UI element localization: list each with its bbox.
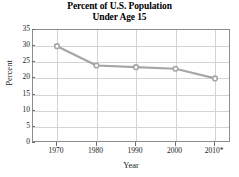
- y-axis-tick-mark: [32, 29, 35, 30]
- y-axis-tick-labels: 05101520253035: [5, 29, 30, 142]
- chart-title-line-1: Percent of U.S. Population: [0, 1, 239, 12]
- y-axis-tick-mark: [32, 142, 35, 143]
- data-point-marker: [173, 66, 178, 71]
- y-axis-tick-mark: [32, 61, 35, 62]
- data-point-marker: [55, 44, 60, 49]
- y-axis-tick-label: 25: [8, 57, 30, 65]
- y-axis-tick-label: 35: [8, 25, 30, 33]
- y-axis-tick-label: 5: [8, 122, 30, 130]
- y-axis-tick-mark: [32, 94, 35, 95]
- x-axis-tick-label: 1970: [36, 146, 76, 155]
- chart-title: Percent of U.S. Population Under Age 15: [0, 1, 239, 23]
- chart-title-line-2: Under Age 15: [0, 12, 239, 23]
- y-axis-tick-label: 10: [8, 106, 30, 114]
- y-axis-tick-label: 30: [8, 41, 30, 49]
- x-axis-tick-label: 2000: [155, 146, 195, 155]
- y-axis-tick-label: 0: [8, 138, 30, 146]
- data-point-marker: [213, 76, 218, 81]
- data-point-marker: [134, 65, 139, 70]
- y-axis-tick-label: 15: [8, 90, 30, 98]
- y-axis-tick-label: 20: [8, 73, 30, 81]
- y-axis-tick-mark: [32, 126, 35, 127]
- x-axis-tick-label: 1990: [115, 146, 155, 155]
- chart-container: Percent of U.S. Population Under Age 15 …: [0, 0, 239, 177]
- x-axis-tick-labels: 19701980199020002010*: [32, 146, 230, 157]
- y-axis-tick-mark: [32, 110, 35, 111]
- y-axis-tick-mark: [32, 77, 35, 78]
- y-axis-tick-mark: [32, 45, 35, 46]
- x-axis-tick-label: 2010*: [194, 146, 234, 155]
- x-axis-tick-label: 1980: [76, 146, 116, 155]
- x-axis-title: Year: [32, 160, 230, 170]
- data-point-marker: [94, 63, 99, 68]
- series-polyline: [57, 46, 215, 78]
- plot-area: [32, 29, 230, 142]
- data-series-line: [33, 30, 230, 142]
- series-markers: [55, 44, 218, 81]
